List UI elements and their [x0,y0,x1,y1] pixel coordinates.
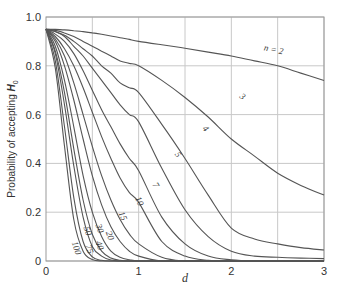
y-axis-ticks: 00.20.40.60.81.0 [26,11,41,267]
curve-label: 4 [201,124,212,134]
x-tick-label: 3 [321,265,327,277]
x-tick-label: 2 [228,265,234,277]
y-axis-label-main: Probability of accepting [6,91,17,197]
curve-label: n = 2 [263,43,285,57]
oc-curve-chart: n = 2345710152030405075100 00.20.40.60.8… [0,0,340,296]
y-tick-label: 0 [35,255,41,267]
x-axis-label: d [182,271,189,285]
y-axis-label-sub: 0 [12,80,19,84]
y-tick-label: 0.8 [26,60,41,72]
curve-label: 20 [104,230,117,242]
curve-label: 7 [151,181,162,190]
curve-label: 75 [83,243,95,255]
curve-label: 100 [70,240,84,256]
y-tick-label: 0.4 [26,157,41,169]
curve-label: 10 [133,195,146,208]
x-tick-label: 0 [43,265,49,277]
y-axis-label: Probability of accepting H0 [6,80,19,197]
y-tick-label: 0.2 [26,206,41,218]
curve-labels: n = 2345710152030405075100 [70,43,285,257]
curve-label: 3 [237,91,248,103]
y-tick-label: 1.0 [26,11,41,23]
x-tick-label: 1 [136,265,142,277]
y-tick-label: 0.6 [26,109,41,121]
